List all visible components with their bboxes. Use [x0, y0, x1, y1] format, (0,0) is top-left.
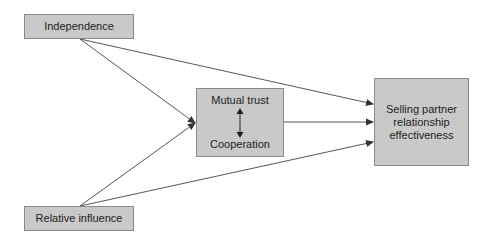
mutual-trust-label: Mutual trust [211, 94, 268, 107]
bidirectional-arrow-icon [235, 108, 245, 138]
node-outcome: Selling partner relationship effectivene… [374, 78, 469, 166]
node-label: Relative influence [36, 212, 123, 225]
node-independence: Independence [24, 14, 134, 39]
node-mediator: Mutual trust Cooperation [196, 88, 284, 157]
node-relative-influence: Relative influence [24, 206, 134, 231]
node-label: Independence [44, 20, 114, 33]
node-label: Selling partner relationship effectivene… [379, 103, 464, 142]
cooperation-label: Cooperation [210, 138, 270, 151]
